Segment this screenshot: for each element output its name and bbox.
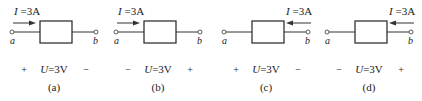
terminal-a-label: a xyxy=(114,35,119,46)
right-polarity-sign: − xyxy=(295,64,301,75)
panel-d: abI =3A−U=3V+(d) xyxy=(325,5,415,94)
voltage-label: U=3V xyxy=(144,63,172,75)
right-polarity-sign: − xyxy=(83,64,89,75)
terminal-b-node xyxy=(306,30,310,34)
terminal-b-label: b xyxy=(93,35,98,46)
circuit-element-box xyxy=(144,21,176,43)
right-polarity-sign: + xyxy=(398,64,404,75)
terminal-a-node xyxy=(10,30,14,34)
terminal-b-label: b xyxy=(305,35,310,46)
terminal-b-label: b xyxy=(197,35,202,46)
panel-caption: (b) xyxy=(152,81,165,94)
terminal-b-node xyxy=(94,30,98,34)
terminal-a-node xyxy=(325,30,329,34)
panel-b: abI =3A−U=3V+(b) xyxy=(114,5,202,94)
voltage-label: U=3V xyxy=(355,63,383,75)
panel-caption: (c) xyxy=(260,81,273,94)
current-label: I =3A xyxy=(117,5,144,17)
current-arrow-icon xyxy=(29,21,36,26)
current-arrow-icon xyxy=(286,21,293,26)
left-polarity-sign: + xyxy=(233,64,239,75)
terminal-a-node xyxy=(222,30,226,34)
current-arrow-icon xyxy=(389,21,396,26)
panel-caption: (a) xyxy=(48,81,61,94)
terminal-a-label: a xyxy=(222,35,227,46)
circuit-element-box xyxy=(40,21,72,43)
left-polarity-sign: − xyxy=(336,64,342,75)
terminal-b-label: b xyxy=(408,35,413,46)
panel-caption: (d) xyxy=(363,81,376,94)
voltage-label: U=3V xyxy=(40,63,68,75)
current-label: I =3A xyxy=(13,5,40,17)
panel-a: abI =3A+U=3V−(a) xyxy=(10,5,98,94)
terminal-b-node xyxy=(198,30,202,34)
panel-c: abI =3A+U=3V−(c) xyxy=(222,5,312,94)
terminal-b-node xyxy=(409,30,413,34)
left-polarity-sign: + xyxy=(21,64,27,75)
circuit-element-box xyxy=(355,21,387,43)
current-arrow-icon xyxy=(133,21,140,26)
current-label: I =3A xyxy=(285,5,312,17)
circuit-diagram: abI =3A+U=3V−(a)abI =3A−U=3V+(b)abI =3A+… xyxy=(0,0,422,101)
terminal-a-label: a xyxy=(10,35,15,46)
terminal-a-node xyxy=(114,30,118,34)
voltage-label: U=3V xyxy=(252,63,280,75)
right-polarity-sign: + xyxy=(187,64,193,75)
circuit-element-box xyxy=(252,21,284,43)
left-polarity-sign: − xyxy=(125,64,131,75)
current-label: I =3A xyxy=(388,5,415,17)
terminal-a-label: a xyxy=(325,35,330,46)
